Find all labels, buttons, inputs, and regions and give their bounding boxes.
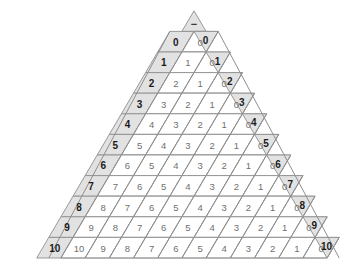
operator-cell (182, 11, 206, 32)
triangle-grid (0, 0, 360, 274)
subtraction-triangle-figure: −000110122102332103443210455432105665432… (0, 0, 360, 274)
